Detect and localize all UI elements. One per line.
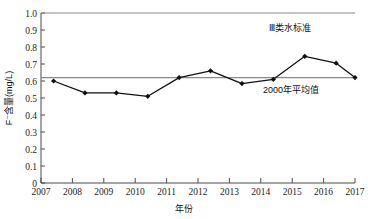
y-tick-label: 0.9: [25, 26, 37, 36]
x-tick-label: 2010: [126, 187, 145, 197]
y-axis-title: F⁻含量(mg/L): [3, 71, 14, 125]
y-tick-label: 0.8: [25, 43, 37, 53]
data-point-marker: [208, 68, 213, 73]
x-tick-label: 2014: [251, 187, 270, 197]
y-tick-label: 0.6: [25, 77, 37, 87]
x-axis-tick-marks: [41, 178, 355, 183]
x-tick-label: 2013: [220, 187, 239, 197]
x-tick-label: 2009: [94, 187, 113, 197]
x-tick-label: 2007: [32, 187, 51, 197]
x-tick-label: 2016: [314, 187, 333, 197]
y-tick-label: 0.2: [25, 145, 37, 155]
x-axis-tick-labels: 2007 2008 2009 2010 2011 2012 2013 2014 …: [32, 187, 365, 197]
x-tick-label: 2012: [189, 187, 208, 197]
data-point-marker: [239, 81, 244, 86]
x-tick-label: 2015: [283, 187, 302, 197]
y-tick-label: 0.7: [25, 60, 37, 70]
data-point-marker: [82, 90, 87, 95]
y-axis-tick-labels: 1.0 0.9 0.8 0.7 0.6 0.5 0.4 0.3 0.2 0.1 …: [25, 9, 37, 189]
x-axis-title: 年份: [175, 203, 193, 214]
data-point-marker: [114, 90, 119, 95]
y-tick-label: 0.5: [25, 94, 37, 104]
annotation-2000-average: 2000年平均值: [263, 84, 319, 95]
fluoride-content-line-chart: 1.0 0.9 0.8 0.7 0.6 0.5 0.4 0.3 0.2 0.1 …: [0, 0, 368, 219]
y-tick-label: 0.3: [25, 128, 37, 138]
y-tick-label: 1.0: [25, 9, 37, 19]
x-tick-label: 2017: [346, 187, 365, 197]
x-tick-label: 2008: [63, 187, 82, 197]
annotation-class-iii-standard: Ⅲ类水标准: [269, 22, 311, 33]
data-point-marker: [51, 78, 56, 83]
y-tick-label: 0.1: [25, 162, 37, 172]
y-tick-label: 0.4: [25, 111, 37, 121]
chart-canvas: 1.0 0.9 0.8 0.7 0.6 0.5 0.4 0.3 0.2 0.1 …: [0, 0, 368, 219]
x-tick-label: 2011: [157, 187, 176, 197]
y-axis-tick-marks: [41, 13, 45, 183]
